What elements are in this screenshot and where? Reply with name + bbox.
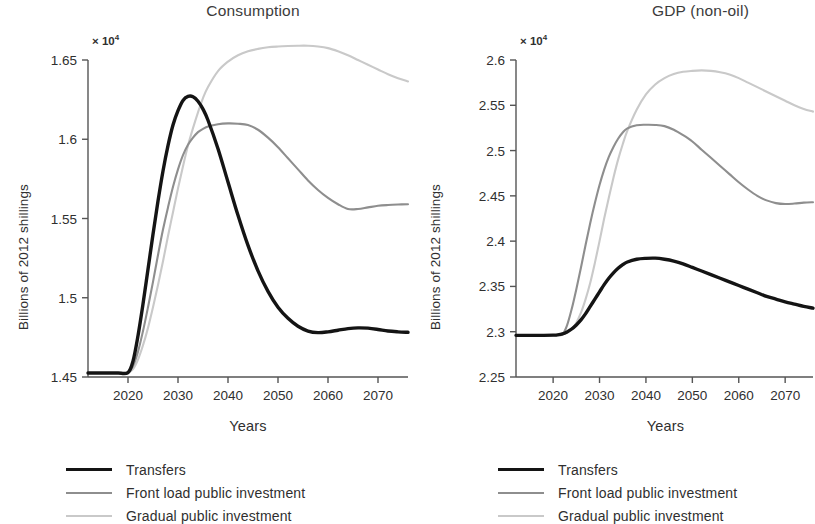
x-tick-label: 2070 bbox=[770, 388, 800, 403]
legend-item-2[interactable]: Gradual public investment bbox=[498, 504, 737, 524]
x-tick-label: 2060 bbox=[313, 388, 343, 403]
panel-gdp-non-oil: GDP (non-oil) Billions of 2012 shillings… bbox=[410, 0, 815, 524]
x-tick-label: 2040 bbox=[213, 388, 243, 403]
y-tick-label: 1.55 bbox=[51, 212, 77, 227]
legend-item-label: Front load public investment bbox=[558, 485, 737, 501]
x-tick-label: 2030 bbox=[163, 388, 193, 403]
legend-item-label: Transfers bbox=[558, 462, 618, 478]
y-tick-label: 1.45 bbox=[51, 370, 77, 385]
legend-swatch-icon bbox=[66, 492, 112, 494]
x-axis-label-left: Years bbox=[88, 418, 408, 434]
x-tick-label: 2020 bbox=[538, 388, 568, 403]
y-tick-label: 1.5 bbox=[58, 291, 77, 306]
x-tick-label: 2040 bbox=[631, 388, 661, 403]
series-line-transfers bbox=[516, 258, 813, 335]
y-tick-label: 2.5 bbox=[486, 144, 505, 159]
y-tick-label: 2.45 bbox=[479, 189, 505, 204]
y-tick-label: 1.6 bbox=[58, 132, 77, 147]
y-tick-label: 2.35 bbox=[479, 279, 505, 294]
legend-swatch-icon bbox=[498, 468, 544, 471]
legend-item-2[interactable]: Gradual public investment bbox=[66, 504, 305, 524]
legend-item-1[interactable]: Front load public investment bbox=[66, 481, 305, 504]
legend-gdp: TransfersFront load public investmentGra… bbox=[498, 458, 737, 524]
y-tick-label: 2.4 bbox=[486, 234, 505, 249]
legend-swatch-icon bbox=[498, 492, 544, 494]
legend-item-1[interactable]: Front load public investment bbox=[498, 481, 737, 504]
x-tick-label: 2070 bbox=[363, 388, 393, 403]
x-tick-label: 2050 bbox=[263, 388, 293, 403]
legend-swatch-icon bbox=[498, 515, 544, 517]
y-tick-label: 2.6 bbox=[486, 53, 505, 68]
figure-root: Consumption Billions of 2012 shillings ×… bbox=[0, 0, 815, 524]
legend-consumption: TransfersFront load public investmentGra… bbox=[66, 458, 305, 524]
legend-item-label: Front load public investment bbox=[126, 485, 305, 501]
legend-item-0[interactable]: Transfers bbox=[498, 458, 737, 481]
plot-area-gdp: 2.252.32.352.42.452.52.552.6202020302040… bbox=[410, 0, 815, 410]
legend-item-label: Gradual public investment bbox=[126, 508, 292, 524]
x-axis-label-right: Years bbox=[516, 418, 815, 434]
x-tick-label: 2020 bbox=[113, 388, 143, 403]
legend-swatch-icon bbox=[66, 468, 112, 471]
legend-item-label: Gradual public investment bbox=[558, 508, 724, 524]
series-line-transfers bbox=[88, 96, 408, 373]
y-tick-label: 1.65 bbox=[51, 53, 77, 68]
y-tick-label: 2.3 bbox=[486, 325, 505, 340]
x-tick-label: 2050 bbox=[677, 388, 707, 403]
x-tick-label: 2030 bbox=[585, 388, 615, 403]
legend-swatch-icon bbox=[66, 515, 112, 517]
panel-consumption: Consumption Billions of 2012 shillings ×… bbox=[0, 0, 410, 524]
legend-item-label: Transfers bbox=[126, 462, 186, 478]
y-tick-label: 2.55 bbox=[479, 98, 505, 113]
plot-area-consumption: 1.451.51.551.61.652020203020402050206020… bbox=[0, 0, 410, 410]
series-line-front_load bbox=[516, 125, 813, 336]
y-tick-label: 2.25 bbox=[479, 370, 505, 385]
legend-item-0[interactable]: Transfers bbox=[66, 458, 305, 481]
x-tick-label: 2060 bbox=[724, 388, 754, 403]
